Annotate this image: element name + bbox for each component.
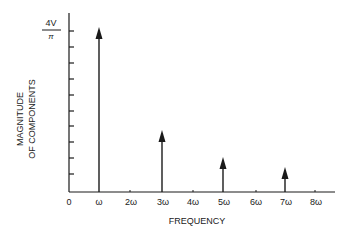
y-ticks bbox=[69, 31, 74, 174]
svg-text:5ω: 5ω bbox=[218, 197, 230, 207]
svg-text:8ω: 8ω bbox=[310, 197, 322, 207]
x-tick-labels: 0 ω 2ω 3ω 4ω 5ω 6ω 7ω 8ω bbox=[66, 197, 322, 207]
svg-text:OF COMPONENTS: OF COMPONENTS bbox=[27, 79, 37, 159]
svg-text:MAGNITUDE: MAGNITUDE bbox=[15, 92, 25, 146]
svg-text:7ω: 7ω bbox=[280, 197, 292, 207]
arrow-5th-harmonic bbox=[220, 157, 227, 192]
y-max-label: 4V π bbox=[42, 18, 61, 41]
y-axis-label: MAGNITUDE OF COMPONENTS bbox=[15, 79, 37, 159]
svg-text:4V: 4V bbox=[45, 18, 56, 28]
spectral-lines bbox=[96, 27, 289, 192]
spectrum-chart: 4V π MAGNITUDE OF COMPONENTS 0 ω 2ω 3ω bbox=[0, 0, 349, 231]
arrow-3rd-harmonic bbox=[159, 130, 166, 192]
arrow-fundamental bbox=[96, 27, 103, 192]
svg-text:6ω: 6ω bbox=[250, 197, 262, 207]
svg-text:π: π bbox=[48, 32, 54, 41]
svg-text:0: 0 bbox=[66, 197, 71, 207]
svg-text:ω: ω bbox=[95, 197, 102, 207]
svg-text:3ω: 3ω bbox=[157, 197, 169, 207]
svg-text:2ω: 2ω bbox=[125, 197, 137, 207]
x-axis-label: FREQUENCY bbox=[169, 216, 226, 226]
arrow-7th-harmonic bbox=[282, 167, 289, 192]
svg-text:4ω: 4ω bbox=[187, 197, 199, 207]
